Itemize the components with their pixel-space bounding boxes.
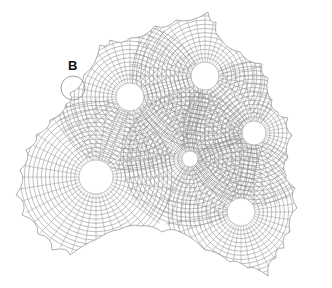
detail-label-b: B: [68, 58, 77, 73]
detail-circle-b: [61, 76, 85, 100]
hole: [242, 121, 266, 145]
mesh-diagram: [0, 0, 332, 288]
hole: [182, 151, 198, 167]
mesh-lines: [17, 0, 328, 288]
hole: [79, 160, 113, 194]
